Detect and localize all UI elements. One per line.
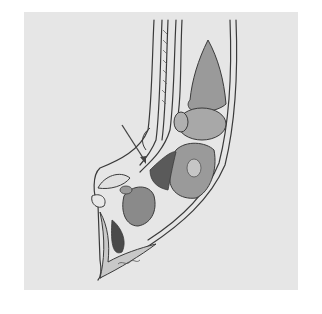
anatomical-illustration <box>0 0 322 314</box>
pointer-arrow <box>122 125 146 164</box>
